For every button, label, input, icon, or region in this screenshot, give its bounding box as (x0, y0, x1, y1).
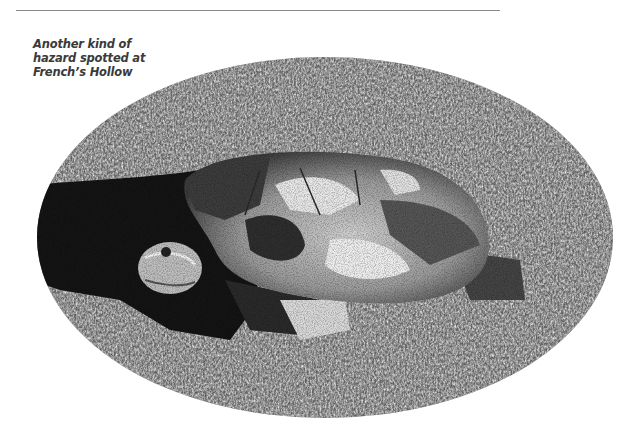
turtle-photo (0, 0, 642, 443)
